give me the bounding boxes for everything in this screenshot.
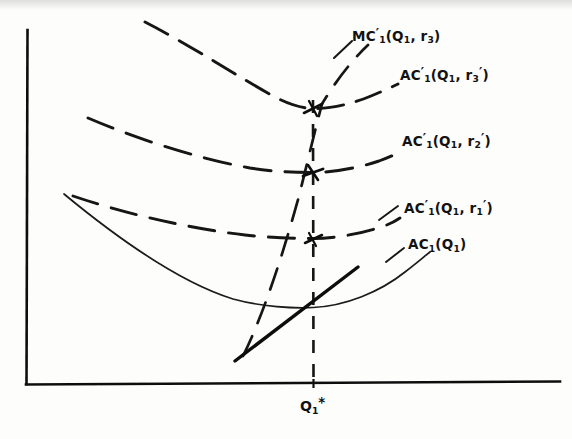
y-axis-line — [27, 30, 28, 384]
label-ac-prime-q1-r2-prime: AC′1(Q1, r2′) — [402, 132, 491, 150]
leader-line-mc-r3 — [334, 41, 352, 58]
label-ac-prime-q1-r3-prime: AC′1(Q1, r3′) — [400, 66, 489, 84]
x-axis-line — [26, 382, 560, 385]
curve-ac-prime-r2 — [88, 118, 400, 173]
curve-ac-prime-r1 — [73, 196, 400, 239]
curve-mc-prime-r3 — [243, 45, 368, 356]
leader-line-ac-base — [386, 248, 404, 262]
label-mc-prime-q1-r3: MC′1(Q1, r3) — [352, 27, 440, 45]
leader-line-ac-r1 — [379, 206, 398, 220]
label-ac-prime-q1-r1-prime: AC′1(Q1, r1′) — [404, 199, 493, 217]
curve-mc-base — [235, 267, 358, 361]
cost-curve-figure: MC′1(Q1, r3) AC′1(Q1, r3′) AC′1(Q1, r2′)… — [0, 0, 572, 439]
label-ac-q1: AC1(Q1) — [408, 238, 466, 253]
x-axis-tick-label-q1-star: Q1* — [300, 396, 325, 415]
